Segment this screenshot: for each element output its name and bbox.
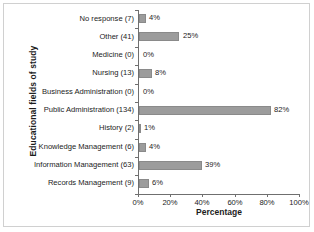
bar-data-label: 0% [143,87,154,97]
bar[interactable] [139,143,146,152]
x-axis-tick [267,194,268,197]
y-axis-tick [135,139,138,140]
bar[interactable] [139,161,202,170]
category-label: Knowledge Management (6) [39,139,134,155]
bar-data-label: 0% [143,50,154,60]
category-label: Medicine (0) [92,47,134,63]
x-axis-tick-label: 80% [250,198,284,207]
y-axis-tick [135,84,138,85]
x-axis-line [138,194,300,195]
x-axis-tick-label: 40% [185,198,219,207]
x-axis-tick [170,194,171,197]
bar-data-label: 25% [183,31,198,41]
bar[interactable] [139,32,179,41]
category-label: Other (41) [99,29,134,45]
x-axis-tick [202,194,203,197]
x-axis-tick [235,194,236,197]
bar-data-label: 8% [155,68,166,78]
y-axis-tick [135,28,138,29]
y-axis-tick [135,10,138,11]
bar-data-label: 39% [205,160,220,170]
category-label: Public Administration (134) [44,102,134,118]
bar-data-label: 4% [149,13,160,23]
category-label-column: No response (7) Other (41) Medicine (0) … [14,10,136,194]
y-axis-tick [135,102,138,103]
category-label: No response (7) [80,11,134,27]
category-label: Information Management (63) [34,157,134,173]
category-label: History (2) [99,120,134,136]
bar[interactable] [139,124,141,133]
category-label: Business Administration (0) [42,84,134,100]
x-axis-title: Percentage [138,207,300,217]
bar[interactable] [139,14,146,23]
bar[interactable] [139,179,149,188]
category-label: Nursing (13) [92,65,134,81]
x-axis-tick-label: 60% [218,198,252,207]
y-axis-tick [135,65,138,66]
x-axis-tick-label: 0% [121,198,155,207]
y-axis-tick [135,157,138,158]
bar-data-label: 6% [152,178,163,188]
x-axis-tick [299,194,300,197]
bar[interactable] [139,69,152,78]
plot-area: 4% 25% 0% 8% 0% 82% 1% 4% 39% 6% 0% 20% … [138,10,300,194]
x-axis-tick [138,194,139,197]
x-axis-tick-label: 20% [153,198,187,207]
x-axis-tick-label: 100% [282,198,314,207]
bar-data-label: 4% [149,142,160,152]
chart-figure: Educational fields of study No response … [0,0,314,232]
bar-data-label: 1% [144,123,155,133]
y-axis-tick [135,47,138,48]
bar[interactable] [139,106,271,115]
bar-data-label: 82% [274,105,289,115]
y-axis-tick [135,175,138,176]
category-label: Records Management (9) [48,175,134,191]
y-axis-tick [135,120,138,121]
